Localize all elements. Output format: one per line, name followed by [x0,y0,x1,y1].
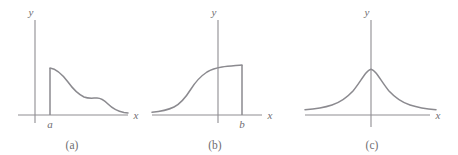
panel-b-point-label-b: b [239,118,245,130]
panel-c-x-axis-label: x [435,109,441,121]
panel-c-caption: (c) [366,139,379,152]
panel-c-y-axis-label: y [364,6,370,18]
panel-a-caption: (a) [66,139,79,152]
panel-b-curve [152,65,242,112]
panel-b-x-axis-label: x [267,109,273,121]
panel-b-caption: (b) [208,139,222,152]
panel-a-x-axis-label: x [133,109,139,121]
panel-b-y-axis-label: y [211,6,217,18]
panel-a-point-label-a: a [47,118,53,130]
panel-c: y x (c) [305,6,441,152]
figure-three-panel-density-plots: y x a (a) y x b (b) y x (c) [0,0,458,155]
panel-a-curve [50,68,128,113]
panel-a: y x a (a) [18,6,139,152]
panel-a-y-axis-label: y [28,6,34,18]
panel-b: y x b (b) [152,6,273,152]
